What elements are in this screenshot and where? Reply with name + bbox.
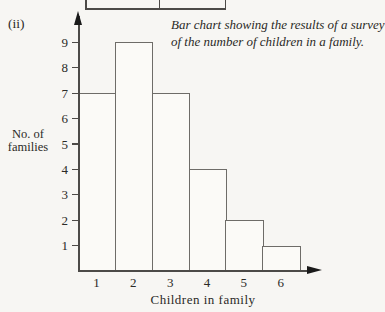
bar-children-5 <box>225 220 263 272</box>
x-axis-title: Children in family <box>130 292 276 308</box>
figure-label: (ii) <box>8 16 25 32</box>
x-tick-label-2: 2 <box>121 275 145 290</box>
y-tick-label-5: 5 <box>46 137 68 152</box>
remnant-left-stub <box>85 0 87 10</box>
x-tick-label-3: 3 <box>158 275 182 290</box>
chart-caption: Bar chart showing the results of a surve… <box>171 17 385 50</box>
y-tick-label-9: 9 <box>46 35 68 50</box>
x-axis-arrow-icon <box>307 266 322 274</box>
y-tick-label-2: 2 <box>46 213 68 228</box>
y-axis-arrow-icon <box>74 11 82 25</box>
bar-children-2 <box>115 42 153 272</box>
y-tick-label-3: 3 <box>46 187 68 202</box>
y-axis-line <box>78 16 80 272</box>
y-axis-title-line2: families <box>4 141 52 154</box>
x-axis-line <box>78 270 309 272</box>
bar-children-4 <box>189 169 227 272</box>
bar-children-3 <box>152 93 190 272</box>
remnant-bottom-line <box>85 8 226 10</box>
y-tick-label-8: 8 <box>46 60 68 75</box>
chart-caption-line1: Bar chart showing the results of a surve… <box>171 17 385 34</box>
remnant-right-stub <box>225 0 227 8</box>
y-tick-label-4: 4 <box>46 162 68 177</box>
remnant-divider-stub <box>159 0 161 10</box>
y-tick-label-7: 7 <box>46 86 68 101</box>
x-tick-label-6: 6 <box>269 275 293 290</box>
x-tick-label-5: 5 <box>232 275 256 290</box>
scanned-bar-chart-figure: (ii) Bar chart showing the results of a … <box>0 0 385 312</box>
bar-children-6 <box>262 246 300 273</box>
chart-caption-line2: of the number of children in a family. <box>171 34 385 51</box>
y-axis-title: No. of families <box>4 128 52 154</box>
y-tick-label-1: 1 <box>46 238 68 253</box>
bar-children-1 <box>78 93 116 272</box>
y-tick-label-6: 6 <box>46 111 68 126</box>
x-tick-label-4: 4 <box>195 275 219 290</box>
x-tick-label-1: 1 <box>84 275 108 290</box>
